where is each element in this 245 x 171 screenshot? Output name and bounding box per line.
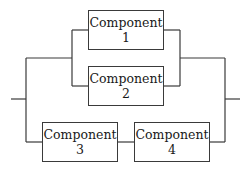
component-2-label: Component: [90, 71, 163, 86]
component-4-label: Component: [136, 127, 209, 142]
component-2-number: 2: [122, 86, 130, 101]
component-1-number: 1: [122, 30, 130, 45]
component-4-block: Component 4: [134, 122, 210, 162]
component-4-number: 4: [168, 142, 176, 157]
component-1-label: Component: [90, 15, 163, 30]
component-1-block: Component 1: [88, 10, 164, 50]
component-3-block: Component 3: [42, 122, 118, 162]
component-2-block: Component 2: [88, 66, 164, 106]
component-3-number: 3: [76, 142, 84, 157]
component-3-label: Component: [44, 127, 117, 142]
